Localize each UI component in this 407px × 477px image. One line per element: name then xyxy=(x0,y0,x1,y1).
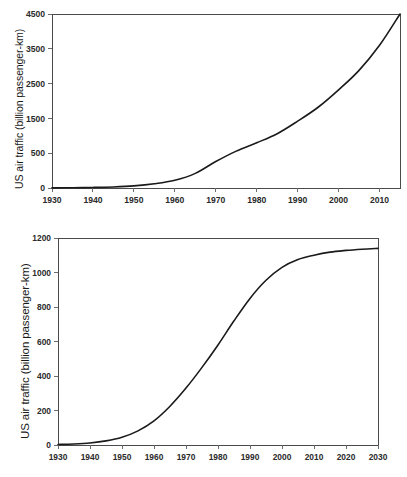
y-tick-label: 1000 xyxy=(32,268,51,278)
x-tick-label: 1990 xyxy=(288,195,307,205)
x-tick-label: 1950 xyxy=(113,452,132,462)
y-tick-label: 2500 xyxy=(26,79,45,89)
x-tick-label: 1940 xyxy=(83,195,102,205)
y-tick-label: 4500 xyxy=(26,9,45,19)
x-tick-label: 1980 xyxy=(209,452,228,462)
y-tick-label: 200 xyxy=(37,406,51,416)
chart-svg-top: 0500150025003500450019301940195019601970… xyxy=(0,0,407,215)
chart-panel-top: US air traffic (billion passenger-km) 05… xyxy=(0,0,407,215)
x-tick-label: 1990 xyxy=(241,452,260,462)
x-tick-label: 2020 xyxy=(337,452,356,462)
x-tick-label: 1940 xyxy=(81,452,100,462)
x-tick-label: 1970 xyxy=(177,452,196,462)
x-tick-label: 1980 xyxy=(247,195,266,205)
y-tick-label: 0 xyxy=(40,183,45,193)
x-tick-label: 2010 xyxy=(370,195,389,205)
y-tick-label: 1500 xyxy=(26,114,45,124)
chart-svg-bottom: 0200400600800100012001930194019501960197… xyxy=(0,225,407,477)
y-tick-label: 500 xyxy=(31,148,46,158)
y-tick-label: 600 xyxy=(37,337,51,347)
y-tick-label: 3500 xyxy=(26,44,45,54)
x-tick-label: 2000 xyxy=(329,195,348,205)
x-tick-label: 1960 xyxy=(165,195,184,205)
x-tick-label: 2010 xyxy=(305,452,324,462)
x-tick-label: 1930 xyxy=(42,195,61,205)
chart-panel-bottom: US air traffic (billion passenger-km) 02… xyxy=(0,225,407,477)
x-tick-label: 1970 xyxy=(206,195,225,205)
y-tick-label: 400 xyxy=(37,371,51,381)
x-tick-label: 2000 xyxy=(273,452,292,462)
y-tick-label: 1200 xyxy=(32,233,51,243)
data-curve xyxy=(58,248,378,444)
x-tick-label: 1960 xyxy=(145,452,164,462)
x-tick-label: 1930 xyxy=(49,452,68,462)
x-tick-label: 1950 xyxy=(124,195,143,205)
y-tick-label: 800 xyxy=(37,302,51,312)
x-tick-label: 2030 xyxy=(369,452,388,462)
y-tick-label: 0 xyxy=(46,440,51,450)
data-curve xyxy=(52,14,400,188)
